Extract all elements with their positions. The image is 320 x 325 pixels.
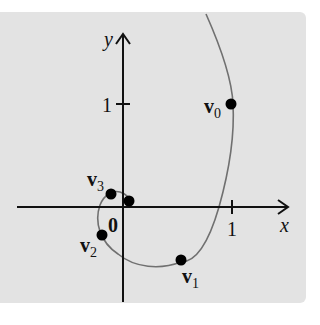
trajectory-curve [98,14,234,267]
origin-label: 0 [108,214,118,236]
y-axis-label: y [102,28,113,51]
label-v0: v0 [204,95,221,121]
point-v3 [106,189,117,200]
point-v0 [226,99,237,110]
y-tick-label: 1 [102,94,112,116]
point-v1 [176,255,187,266]
label-v3: v3 [87,168,104,194]
label-v1: v1 [182,265,199,291]
x-axis-label: x [279,214,289,236]
point-v2 [97,230,108,241]
point-v4 [124,196,135,207]
trajectory-plot: y x 0 1 1 v0 v1 v2 v3 [0,0,320,325]
x-tick-label: 1 [227,218,237,240]
label-v2: v2 [80,234,97,260]
